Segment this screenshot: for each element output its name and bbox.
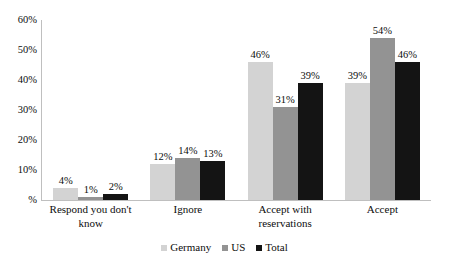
bar-slot: 1% bbox=[78, 20, 103, 200]
bar[interactable] bbox=[345, 83, 370, 200]
bar-group: 39%54%46% bbox=[334, 20, 431, 200]
bar[interactable] bbox=[248, 62, 273, 200]
bar-value-label: 39% bbox=[348, 70, 367, 81]
y-axis-tick-label: 20% bbox=[18, 135, 37, 146]
y-axis-tick-label: 60% bbox=[18, 15, 37, 26]
x-axis-category-label: Respond you don'tknow bbox=[42, 203, 139, 230]
legend-swatch-icon bbox=[222, 245, 228, 251]
bar-group-bars: 46%31%39% bbox=[237, 20, 334, 200]
bar-group-bars: 4%1%2% bbox=[42, 20, 139, 200]
bar-value-label: 31% bbox=[276, 94, 295, 105]
bar-value-label: 46% bbox=[398, 49, 417, 60]
bar[interactable] bbox=[370, 38, 395, 200]
x-axis-category-label: Accept bbox=[334, 203, 431, 217]
bar-group-bars: 12%14%13% bbox=[139, 20, 236, 200]
bar[interactable] bbox=[200, 161, 225, 200]
bar-slot: 31% bbox=[273, 20, 298, 200]
y-axis-tick-label: 30% bbox=[18, 105, 37, 116]
bar[interactable] bbox=[150, 164, 175, 200]
bar[interactable] bbox=[53, 188, 78, 200]
bar-group: 46%31%39% bbox=[237, 20, 334, 200]
bar-slot: 2% bbox=[103, 20, 128, 200]
bar-value-label: 1% bbox=[84, 184, 98, 195]
y-axis-tick-label: 40% bbox=[18, 75, 37, 86]
x-axis-category-label-line: reservations bbox=[237, 217, 334, 231]
y-axis: %10%20%30%40%50%60% bbox=[0, 0, 40, 210]
legend-item[interactable]: Germany bbox=[161, 242, 211, 253]
y-axis-tick-label: % bbox=[28, 195, 37, 206]
chart-legend: GermanyUSTotal bbox=[0, 242, 449, 253]
bar[interactable] bbox=[78, 197, 103, 200]
bar-slot: 12% bbox=[150, 20, 175, 200]
legend-label: Germany bbox=[170, 242, 211, 253]
bar[interactable] bbox=[175, 158, 200, 200]
legend-swatch-icon bbox=[256, 245, 262, 251]
x-axis-category-label: Ignore bbox=[139, 203, 236, 217]
bar-value-label: 39% bbox=[301, 70, 320, 81]
bar-value-label: 14% bbox=[178, 145, 197, 156]
bar-value-label: 2% bbox=[109, 181, 123, 192]
bar-slot: 39% bbox=[298, 20, 323, 200]
bar-slot: 46% bbox=[248, 20, 273, 200]
bar[interactable] bbox=[273, 107, 298, 200]
bar-value-label: 4% bbox=[59, 175, 73, 186]
x-axis-line bbox=[41, 200, 431, 201]
x-axis-category-label: Accept withreservations bbox=[237, 203, 334, 230]
legend-item[interactable]: US bbox=[222, 242, 245, 253]
bar-group: 4%1%2% bbox=[42, 20, 139, 200]
bar-group: 12%14%13% bbox=[139, 20, 236, 200]
x-axis-category-label-line: Accept with bbox=[237, 203, 334, 217]
bar[interactable] bbox=[103, 194, 128, 200]
y-axis-tick-label: 50% bbox=[18, 45, 37, 56]
bar[interactable] bbox=[298, 83, 323, 200]
y-axis-tick-label: 10% bbox=[18, 165, 37, 176]
bar-value-label: 54% bbox=[373, 25, 392, 36]
legend-swatch-icon bbox=[161, 245, 167, 251]
bar-slot: 46% bbox=[395, 20, 420, 200]
bar-slot: 39% bbox=[345, 20, 370, 200]
bar-group-bars: 39%54%46% bbox=[334, 20, 431, 200]
x-axis-category-label-line: know bbox=[42, 217, 139, 231]
bar-slot: 13% bbox=[200, 20, 225, 200]
bar[interactable] bbox=[395, 62, 420, 200]
x-axis-category-labels: Respond you don'tknowIgnoreAccept withre… bbox=[42, 203, 431, 237]
x-axis-category-label-line: Accept bbox=[334, 203, 431, 217]
bar-value-label: 12% bbox=[153, 151, 172, 162]
x-axis-category-label-line: Respond you don't bbox=[42, 203, 139, 217]
bar-slot: 54% bbox=[370, 20, 395, 200]
plot-area: 4%1%2%12%14%13%46%31%39%39%54%46% bbox=[42, 20, 431, 200]
bar-slot: 4% bbox=[53, 20, 78, 200]
bar-value-label: 46% bbox=[251, 49, 270, 60]
legend-label: Total bbox=[265, 242, 287, 253]
x-axis-category-label-line: Ignore bbox=[139, 203, 236, 217]
bar-value-label: 13% bbox=[203, 148, 222, 159]
bar-slot: 14% bbox=[175, 20, 200, 200]
legend-item[interactable]: Total bbox=[256, 242, 287, 253]
legend-label: US bbox=[231, 242, 245, 253]
bar-chart: %10%20%30%40%50%60% 4%1%2%12%14%13%46%31… bbox=[0, 0, 449, 265]
